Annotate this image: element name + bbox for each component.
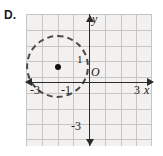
gridline-vertical xyxy=(105,14,106,146)
x-tick-label-pos3: 3 xyxy=(134,84,140,96)
figure-root: D. xyxy=(0,0,163,156)
point-value-label: 1 xyxy=(77,54,83,65)
y-axis-label: y xyxy=(92,13,97,25)
y-axis xyxy=(89,14,90,146)
x-axis-label: x xyxy=(144,84,149,96)
y-tick-label-neg3: -3 xyxy=(71,120,81,132)
plotted-point xyxy=(55,64,61,70)
gridline-vertical xyxy=(121,14,122,146)
gridline-vertical xyxy=(136,14,137,146)
x-tick-label-neg3: -3 xyxy=(30,84,40,96)
y-axis-arrow-down xyxy=(86,139,94,146)
coordinate-plane xyxy=(26,14,152,146)
origin-label: O xyxy=(91,66,100,78)
choice-letter: D. xyxy=(4,8,16,22)
x-tick-label-neg1: -1 xyxy=(61,84,71,96)
